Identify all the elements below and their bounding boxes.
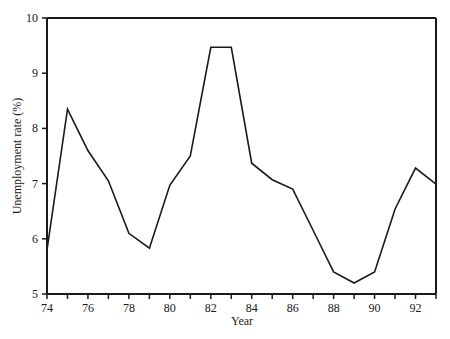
y-axis-title: Unemployment rate (%) [10, 98, 24, 215]
x-axis-ticks: 74767880828486889092 [41, 294, 436, 315]
x-tick-label: 76 [82, 301, 94, 315]
line-chart: 5678910 74767880828486889092 Year Unempl… [0, 0, 450, 339]
data-series [47, 47, 436, 283]
y-tick-label: 8 [32, 121, 38, 135]
x-tick-label: 82 [205, 301, 217, 315]
x-tick-label: 84 [246, 301, 258, 315]
x-tick-label: 90 [369, 301, 381, 315]
x-axis-title: Year [231, 314, 253, 328]
series-line [47, 47, 436, 283]
y-tick-label: 5 [32, 287, 38, 301]
y-axis-ticks: 5678910 [26, 11, 47, 301]
plot-frame [47, 18, 436, 294]
y-tick-label: 9 [32, 66, 38, 80]
x-tick-label: 74 [41, 301, 53, 315]
x-tick-label: 88 [328, 301, 340, 315]
y-tick-label: 7 [32, 177, 38, 191]
x-tick-label: 80 [164, 301, 176, 315]
y-tick-label: 10 [26, 11, 38, 25]
x-tick-label: 78 [123, 301, 135, 315]
x-tick-label: 92 [410, 301, 422, 315]
x-tick-label: 86 [287, 301, 299, 315]
y-tick-label: 6 [32, 232, 38, 246]
